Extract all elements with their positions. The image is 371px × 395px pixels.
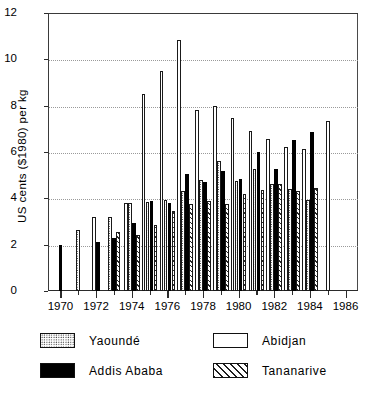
legend-item-addis-ababa: Addis Ababa — [40, 363, 163, 378]
x-tick-mark — [167, 291, 168, 298]
bar-tananarive-1984 — [314, 188, 318, 291]
bar-tananarive-1981 — [261, 190, 265, 291]
bar-series-container — [48, 13, 358, 291]
bar-tananarive-1983 — [296, 191, 300, 291]
x-tick-mark — [150, 291, 151, 295]
y-tick-mark — [44, 59, 48, 60]
x-tick-mark — [292, 291, 293, 295]
x-tick-mark — [78, 291, 79, 295]
y-tick-mark — [44, 198, 48, 199]
x-tick-mark — [274, 291, 275, 298]
x-tick-mark — [328, 291, 329, 295]
x-tick-label: 1980 — [226, 300, 252, 312]
x-tick-mark — [310, 291, 311, 298]
x-tick-label: 1978 — [190, 300, 216, 312]
x-tick-mark — [346, 291, 347, 298]
x-tick-mark — [239, 291, 240, 298]
x-tick-mark — [96, 291, 97, 298]
legend-label-tananarive: Tananarive — [262, 364, 327, 378]
legend-swatch-tananarive-icon — [213, 363, 248, 378]
bar-tananarive-1976 — [172, 211, 176, 291]
x-tick-mark — [132, 291, 133, 298]
bar-tananarive-1974 — [136, 235, 140, 291]
x-tick-mark — [185, 291, 186, 295]
x-axis-ticks — [48, 291, 358, 298]
legend-label-yaounde: Yaoundé — [89, 334, 140, 348]
y-tick-label: 2 — [0, 238, 17, 250]
bar-tananarive-1973 — [116, 232, 120, 291]
y-tick-mark — [44, 245, 48, 246]
bar-tananarive-1979 — [225, 204, 229, 291]
bar-tananarive-1982 — [278, 184, 282, 291]
legend-label-abidjan: Abidjan — [262, 334, 306, 348]
x-tick-label: 1984 — [297, 300, 323, 312]
y-tick-label: 0 — [0, 284, 17, 296]
y-tick-label: 8 — [0, 99, 17, 111]
x-tick-mark — [221, 291, 222, 295]
legend-label-addis-ababa: Addis Ababa — [89, 364, 163, 378]
x-tick-label: 1982 — [261, 300, 287, 312]
bar-tananarive-1977 — [189, 204, 193, 291]
y-tick-label: 12 — [0, 6, 17, 18]
y-tick-label: 6 — [0, 145, 17, 157]
x-tick-mark — [203, 291, 204, 298]
x-tick-label: 1974 — [119, 300, 145, 312]
x-tick-label: 1972 — [83, 300, 109, 312]
y-axis-label: US cents ($1980) per kg — [16, 46, 28, 266]
bar-abidjan-1985 — [326, 121, 330, 291]
y-tick-mark — [44, 106, 48, 107]
y-tick-mark — [44, 13, 48, 14]
bar-tananarive-1980 — [243, 194, 247, 291]
legend-item-yaounde: Yaoundé — [40, 333, 140, 348]
y-tick-label: 10 — [0, 52, 17, 64]
bar-yaounde-1971 — [76, 230, 80, 291]
legend-swatch-yaounde-icon — [40, 333, 75, 348]
chart-legend: Yaoundé Abidjan Addis Ababa Tananarive — [0, 330, 371, 390]
bar-tananarive-1978 — [207, 201, 211, 291]
legend-swatch-abidjan-icon — [213, 333, 248, 348]
legend-swatch-addis-ababa-icon — [40, 363, 75, 378]
x-tick-mark — [256, 291, 257, 295]
x-tick-mark — [114, 291, 115, 295]
x-tick-mark — [60, 291, 61, 298]
bar-tananarive-1975 — [154, 225, 158, 291]
bar-addis-1972 — [96, 242, 100, 291]
y-tick-label: 4 — [0, 191, 17, 203]
bar-addis-1970 — [59, 245, 63, 291]
legend-item-tananarive: Tananarive — [213, 363, 327, 378]
legend-item-abidjan: Abidjan — [213, 333, 306, 348]
x-axis-tick-labels: 197019721974197619781980198219841986 — [0, 300, 371, 316]
x-tick-label: 1986 — [333, 300, 359, 312]
x-tick-label: 1976 — [155, 300, 181, 312]
y-tick-mark — [44, 152, 48, 153]
bar-chart-figure: US cents ($1980) per kg 024681012 197019… — [0, 0, 371, 395]
x-tick-label: 1970 — [48, 300, 74, 312]
